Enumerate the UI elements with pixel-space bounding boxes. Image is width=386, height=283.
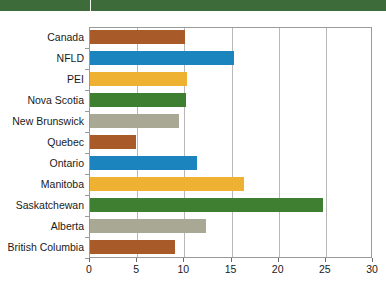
bar[interactable] (90, 93, 186, 107)
bar-row: Canada (0, 27, 386, 48)
x-axis-tick (231, 258, 232, 262)
y-axis-tick (85, 90, 89, 91)
bar[interactable] (90, 177, 244, 191)
x-axis-tick (278, 258, 279, 262)
bar[interactable] (90, 156, 197, 170)
category-label: Canada (0, 27, 84, 48)
category-label: Manitoba (0, 174, 84, 195)
x-axis-tick-label: 10 (168, 263, 198, 275)
y-axis-tick (85, 237, 89, 238)
x-axis-tick-label: 15 (216, 263, 246, 275)
bar-row: Ontario (0, 153, 386, 174)
bar-row: Quebec (0, 132, 386, 153)
x-axis-tick-label: 0 (74, 263, 104, 275)
x-axis-tick (89, 258, 90, 262)
bar-row: Nova Scotia (0, 90, 386, 111)
category-label: Quebec (0, 132, 84, 153)
category-label: British Columbia (0, 237, 84, 258)
bar-row: New Brunswick (0, 111, 386, 132)
bar[interactable] (90, 198, 323, 212)
category-label: Nova Scotia (0, 90, 84, 111)
bar-row: Alberta (0, 216, 386, 237)
bar[interactable] (90, 135, 136, 149)
category-label: New Brunswick (0, 111, 84, 132)
x-axis-tick (325, 258, 326, 262)
x-axis-tick-label: 5 (121, 263, 151, 275)
bar-row: British Columbia (0, 237, 386, 258)
category-label: Ontario (0, 153, 84, 174)
x-axis-tick-label: 30 (357, 263, 386, 275)
y-axis-tick (85, 132, 89, 133)
y-axis-tick (85, 258, 89, 259)
y-axis-tick (85, 195, 89, 196)
category-label: NFLD (0, 48, 84, 69)
bar-row: PEI (0, 69, 386, 90)
top-band-tick-mark (90, 0, 91, 11)
category-label: Alberta (0, 216, 84, 237)
bar[interactable] (90, 240, 175, 254)
bar-row: Manitoba (0, 174, 386, 195)
x-axis: 051015202530 (0, 258, 386, 283)
y-axis-tick (85, 48, 89, 49)
bar[interactable] (90, 51, 234, 65)
x-axis-tick-label: 20 (263, 263, 293, 275)
bar[interactable] (90, 219, 206, 233)
x-axis-tick (136, 258, 137, 262)
bar-row: NFLD (0, 48, 386, 69)
bar-rows: CanadaNFLDPEINova ScotiaNew BrunswickQue… (0, 27, 386, 258)
x-axis-tick-label: 25 (310, 263, 340, 275)
top-green-band (0, 0, 386, 11)
y-axis-tick (85, 69, 89, 70)
bar[interactable] (90, 30, 185, 44)
horizontal-bar-chart: CanadaNFLDPEINova ScotiaNew BrunswickQue… (0, 12, 386, 283)
y-axis-tick (85, 111, 89, 112)
y-axis-tick (85, 174, 89, 175)
bar[interactable] (90, 72, 187, 86)
bar[interactable] (90, 114, 179, 128)
bar-row: Saskatchewan (0, 195, 386, 216)
y-axis-tick (85, 153, 89, 154)
x-axis-tick (183, 258, 184, 262)
category-label: PEI (0, 69, 84, 90)
category-label: Saskatchewan (0, 195, 84, 216)
y-axis-tick (85, 216, 89, 217)
x-axis-tick (372, 258, 373, 262)
